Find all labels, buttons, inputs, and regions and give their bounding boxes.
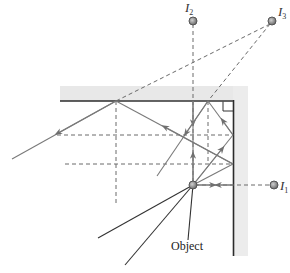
viewer-sight-lines <box>98 185 193 265</box>
image-I3-point <box>268 17 276 25</box>
image-I1-label: I1 <box>279 178 288 195</box>
image-I2-label: I2 <box>184 0 193 17</box>
image-I2-point <box>189 17 197 25</box>
reflected-rays <box>12 101 233 185</box>
right-angle-mark <box>223 101 233 111</box>
object-label: Object <box>171 239 204 253</box>
image-I3-label: I3 <box>277 4 286 21</box>
image-I1-point <box>270 181 278 189</box>
object-point <box>189 181 197 189</box>
two-mirror-diagram: I2 I3 I1 Object <box>0 0 290 273</box>
